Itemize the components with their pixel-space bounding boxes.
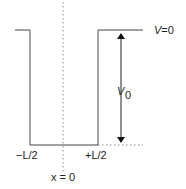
potential-well-diagram: V=0 V 0 −L/2 +L/2 x = 0 — [0, 0, 186, 189]
left-edge-label: −L/2 — [16, 149, 38, 161]
depth-subscript: 0 — [125, 89, 131, 101]
top-potential-label: V=0 — [154, 24, 174, 36]
right-edge-label: +L/2 — [85, 149, 107, 161]
center-label: x = 0 — [51, 171, 75, 183]
